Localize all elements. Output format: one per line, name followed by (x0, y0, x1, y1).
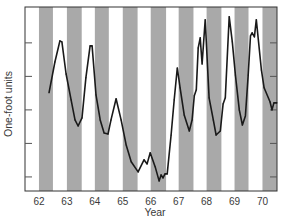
data-point (239, 109, 240, 110)
x-tick-label-63: 63 (61, 196, 73, 207)
data-point (110, 119, 111, 120)
shaded-band-1 (39, 7, 53, 191)
data-point (245, 115, 246, 116)
data-point (215, 134, 216, 135)
data-point (229, 16, 230, 17)
data-point (159, 180, 160, 181)
data-point (59, 40, 60, 41)
data-point (61, 41, 62, 42)
data-point (179, 87, 180, 88)
data-point (70, 99, 71, 100)
data-point (276, 102, 277, 103)
data-point (174, 99, 175, 100)
x-tick-label-68: 68 (201, 196, 213, 207)
data-point (160, 174, 161, 175)
data-point (150, 152, 151, 153)
data-point (77, 125, 78, 126)
shaded-band-6 (179, 7, 194, 191)
data-point (242, 124, 243, 125)
data-point (164, 173, 165, 174)
x-tick-label-69: 69 (229, 196, 241, 207)
data-point (213, 119, 214, 120)
data-point (74, 119, 75, 120)
data-point (121, 119, 122, 120)
data-point (155, 166, 156, 167)
data-point (171, 134, 172, 135)
data-point (191, 119, 192, 120)
data-point (205, 19, 206, 20)
data-point (138, 171, 139, 172)
data-point (103, 132, 104, 133)
data-point (232, 41, 233, 42)
data-point (196, 89, 197, 90)
data-point (65, 73, 66, 74)
data-point (143, 159, 144, 160)
y-ticks-left (25, 43, 32, 177)
data-point (202, 63, 203, 64)
data-point (131, 161, 132, 162)
data-point (256, 19, 257, 20)
data-point (95, 94, 96, 95)
x-tick-label-62: 62 (33, 196, 45, 207)
data-point (248, 74, 249, 75)
data-point (261, 69, 262, 70)
data-point (250, 35, 251, 36)
x-tick-label-70: 70 (257, 196, 269, 207)
data-point (146, 163, 147, 164)
data-point (115, 98, 116, 99)
shaded-band-4 (123, 7, 138, 191)
data-point (271, 109, 272, 110)
data-point (225, 97, 226, 98)
data-point (200, 37, 201, 38)
data-point (264, 87, 265, 88)
data-point (107, 133, 108, 134)
x-tick-label-64: 64 (89, 196, 101, 207)
shaded-band-5 (151, 7, 166, 191)
data-point (89, 45, 90, 46)
shaded-bands (39, 7, 277, 191)
data-point (85, 77, 86, 78)
data-point (162, 177, 163, 178)
data-point (254, 36, 255, 37)
data-point (189, 130, 190, 131)
data-point (167, 173, 168, 174)
data-point (269, 101, 270, 102)
data-point (91, 45, 92, 46)
shaded-band-2 (67, 7, 82, 191)
data-point (194, 95, 195, 96)
data-point (184, 114, 185, 115)
data-point (222, 103, 223, 104)
x-tick-label-67: 67 (173, 196, 185, 207)
data-point (54, 61, 55, 62)
data-point (48, 92, 49, 93)
data-point (273, 102, 274, 103)
data-point (126, 144, 127, 145)
x-tick-label-65: 65 (117, 196, 129, 207)
data-point (177, 67, 178, 68)
data-point (209, 97, 210, 98)
data-point (81, 117, 82, 118)
shaded-band-9 (262, 7, 277, 191)
data-point (252, 32, 253, 33)
line-chart: 626364656667686970 Year One-foot units (0, 0, 281, 219)
data-point (198, 47, 199, 48)
y-axis-label: One-foot units (2, 71, 14, 137)
x-axis-label: Year (144, 206, 166, 218)
data-point (235, 74, 236, 75)
data-point (100, 119, 101, 120)
data-point (220, 130, 221, 131)
